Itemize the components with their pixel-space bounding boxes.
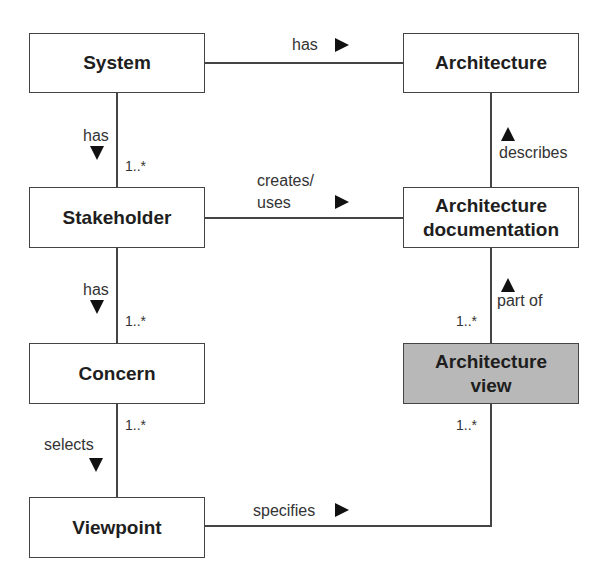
- node-architecture-documentation: Architecture documentation: [403, 187, 579, 248]
- edge-view-down: [490, 403, 492, 526]
- edge-documentation-view: [490, 247, 492, 343]
- edge-stakeholder-concern: [116, 247, 118, 343]
- node-stakeholder: Stakeholder: [29, 187, 205, 248]
- node-architecture-view-line2: view: [470, 374, 511, 398]
- label-selects: selects: [44, 436, 94, 454]
- node-architecture-label: Architecture: [435, 51, 547, 75]
- multiplicity-concern: 1..*: [125, 313, 146, 329]
- label-specifies: specifies: [253, 502, 315, 520]
- arrow-right-icon: [335, 195, 349, 209]
- multiplicity-stakeholder: 1..*: [125, 158, 146, 174]
- node-system: System: [29, 33, 205, 93]
- node-architecture-documentation-line2: documentation: [423, 218, 559, 242]
- node-architecture-view: Architecture view: [403, 343, 579, 404]
- node-viewpoint: Viewpoint: [29, 497, 205, 558]
- arrow-down-icon: [89, 458, 103, 472]
- edge-concern-viewpoint: [116, 403, 118, 497]
- multiplicity-view-viewpoint: 1..*: [456, 417, 477, 433]
- multiplicity-concern-viewpoint: 1..*: [125, 417, 146, 433]
- edge-architecture-documentation: [490, 92, 492, 187]
- arrow-down-icon: [90, 300, 104, 314]
- node-architecture-documentation-line1: Architecture: [435, 194, 547, 218]
- arrow-down-icon: [90, 146, 104, 160]
- node-system-label: System: [83, 51, 151, 75]
- node-viewpoint-label: Viewpoint: [72, 516, 161, 540]
- multiplicity-view-part-of: 1..*: [456, 313, 477, 329]
- arrow-up-icon: [501, 278, 515, 292]
- node-stakeholder-label: Stakeholder: [63, 206, 172, 230]
- label-part-of: part of: [497, 292, 542, 310]
- node-architecture: Architecture: [403, 33, 579, 93]
- arrow-up-icon: [501, 127, 515, 141]
- edge-stakeholder-documentation: [204, 217, 403, 219]
- arrow-right-icon: [335, 503, 349, 517]
- label-stakeholder-has-concern: has: [83, 281, 109, 299]
- edge-system-architecture: [204, 62, 403, 64]
- label-system-has-stakeholder: has: [83, 127, 109, 145]
- label-uses: uses: [257, 194, 291, 212]
- node-concern-label: Concern: [78, 362, 155, 386]
- label-system-has-architecture: has: [292, 36, 318, 54]
- edge-viewpoint-view: [204, 525, 492, 527]
- edge-system-stakeholder: [116, 92, 118, 187]
- node-concern: Concern: [29, 343, 205, 404]
- label-creates: creates/: [257, 172, 314, 190]
- arrow-right-icon: [335, 38, 349, 52]
- node-architecture-view-line1: Architecture: [435, 350, 547, 374]
- label-describes: describes: [499, 144, 567, 162]
